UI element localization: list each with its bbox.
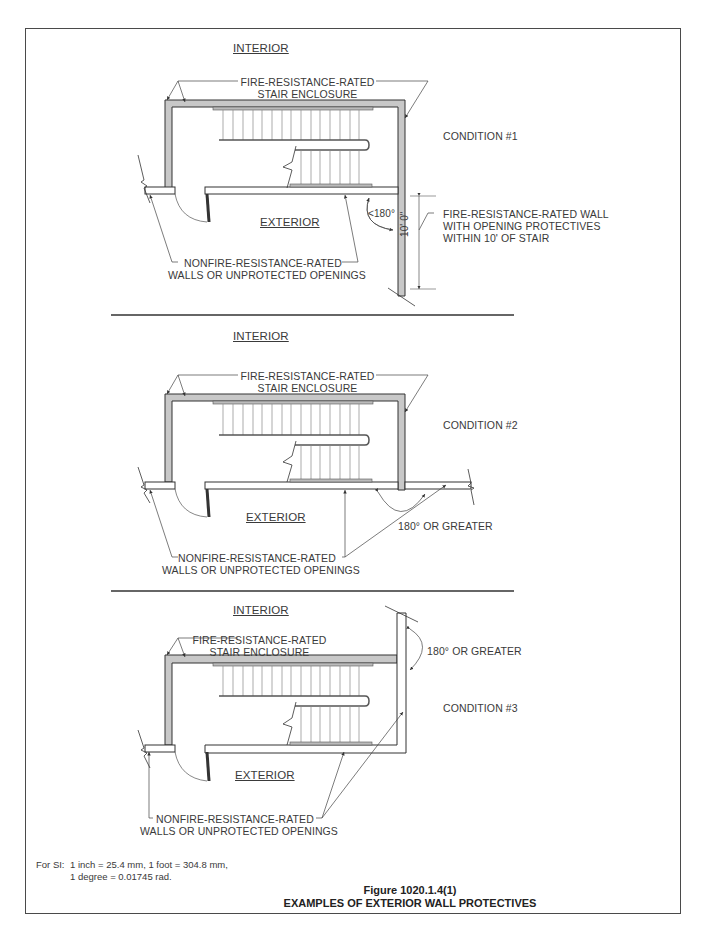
si-line-2: 1 degree = 0.01745 rad. bbox=[70, 871, 172, 883]
exterior-label: EXTERIOR bbox=[260, 216, 320, 228]
rated-wall-label: FIRE-RESISTANCE-RATED WALL WITH OPENING … bbox=[443, 208, 609, 244]
interior-label: INTERIOR bbox=[233, 42, 289, 54]
si-line-1: 1 inch = 25.4 mm, 1 foot = 304.8 mm, bbox=[70, 859, 228, 871]
angle-label: <180° bbox=[368, 208, 395, 220]
si-conversion-notes: For SI: 1 inch = 25.4 mm, 1 foot = 304.8… bbox=[36, 859, 228, 883]
condition-label: CONDITION #2 bbox=[443, 419, 518, 431]
angle-label: 180° OR GREATER bbox=[427, 645, 522, 657]
si-prefix: For SI: bbox=[36, 859, 70, 871]
nonrated-label: NONFIRE-RESISTANCE-RATED WALLS OR UNPROT… bbox=[162, 552, 352, 576]
enclosure-label: FIRE-RESISTANCE-RATED STAIR ENCLOSURE bbox=[240, 370, 375, 394]
figure-number: Figure 1020.1.4(1) bbox=[200, 884, 620, 897]
angle-label: 180° OR GREATER bbox=[398, 520, 493, 532]
nonrated-label: NONFIRE-RESISTANCE-RATED WALLS OR UNPROT… bbox=[140, 813, 330, 837]
exterior-label: EXTERIOR bbox=[235, 769, 295, 781]
condition-label: CONDITION #1 bbox=[443, 130, 518, 142]
nonrated-label: NONFIRE-RESISTANCE-RATED WALLS OR UNPROT… bbox=[168, 257, 358, 281]
enclosure-label: FIRE-RESISTANCE-RATED STAIR ENCLOSURE bbox=[240, 76, 375, 100]
interior-label: INTERIOR bbox=[233, 330, 289, 342]
enclosure-label: FIRE-RESISTANCE-RATED STAIR ENCLOSURE bbox=[192, 634, 327, 658]
floor-plan-drawing bbox=[0, 0, 703, 938]
exterior-label: EXTERIOR bbox=[246, 511, 306, 523]
figure-title: EXAMPLES OF EXTERIOR WALL PROTECTIVES bbox=[200, 897, 620, 910]
condition-label: CONDITION #3 bbox=[443, 702, 518, 714]
interior-label: INTERIOR bbox=[233, 604, 289, 616]
dimension-label: 10' 0" bbox=[399, 211, 411, 237]
